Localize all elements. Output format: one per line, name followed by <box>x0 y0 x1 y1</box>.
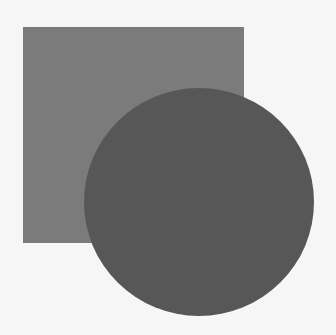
dark-gray-circle <box>84 88 314 316</box>
diagram-canvas <box>0 0 336 335</box>
